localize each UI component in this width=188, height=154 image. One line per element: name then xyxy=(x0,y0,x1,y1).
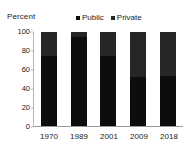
x-axis-line xyxy=(33,126,183,127)
bar-segment-private-2009[interactable] xyxy=(130,32,146,77)
chart-legend: Public Private xyxy=(76,13,142,22)
bar-segment-private-2001[interactable] xyxy=(100,32,116,56)
bar-column-1989[interactable] xyxy=(71,32,87,126)
y-tick-label-20: 20 xyxy=(22,104,30,112)
bar-column-2001[interactable] xyxy=(100,32,116,126)
x-tick-label-1989: 1989 xyxy=(66,132,92,141)
bar-group xyxy=(34,32,183,126)
x-tick-layer: 19701989200120092018 xyxy=(34,132,184,141)
y-axis-title: Percent xyxy=(7,12,35,21)
x-tick-label-2009: 2009 xyxy=(126,132,152,141)
bar-segment-public-2009[interactable] xyxy=(130,77,146,126)
y-tick-mark-40 xyxy=(31,89,33,90)
bar-segment-public-1989[interactable] xyxy=(71,37,87,126)
legend-item-public[interactable]: Public xyxy=(76,13,104,22)
plot-area: 020406080100 xyxy=(33,32,183,127)
legend-label-private: Private xyxy=(117,13,142,22)
y-tick-mark-0 xyxy=(31,127,33,128)
bar-column-2018[interactable] xyxy=(160,32,176,126)
bar-segment-public-2018[interactable] xyxy=(160,76,176,126)
x-tick-label-1970: 1970 xyxy=(36,132,62,141)
y-tick-mark-80 xyxy=(31,51,33,52)
legend-label-public: Public xyxy=(82,13,104,22)
bar-segment-public-1970[interactable] xyxy=(41,56,57,126)
bar-segment-private-1970[interactable] xyxy=(41,32,57,56)
y-tick-label-0: 0 xyxy=(26,123,30,131)
y-tick-label-60: 60 xyxy=(22,66,30,74)
y-tick-mark-20 xyxy=(31,108,33,109)
y-tick-mark-60 xyxy=(31,70,33,71)
bar-column-1970[interactable] xyxy=(41,32,57,126)
stacked-bar-chart: Percent Public Private 020406080100 1970… xyxy=(0,0,188,154)
x-tick-label-2001: 2001 xyxy=(96,132,122,141)
y-tick-label-40: 40 xyxy=(22,85,30,93)
legend-item-private[interactable]: Private xyxy=(111,13,142,22)
legend-square-marker-public xyxy=(76,16,80,20)
y-tick-mark-100 xyxy=(31,32,33,33)
bar-segment-private-2018[interactable] xyxy=(160,32,176,76)
bar-segment-public-2001[interactable] xyxy=(100,56,116,126)
y-tick-label-100: 100 xyxy=(17,28,30,36)
y-tick-label-80: 80 xyxy=(22,47,30,55)
bar-column-2009[interactable] xyxy=(130,32,146,126)
legend-square-marker-private xyxy=(111,16,115,20)
x-tick-label-2018: 2018 xyxy=(156,132,182,141)
